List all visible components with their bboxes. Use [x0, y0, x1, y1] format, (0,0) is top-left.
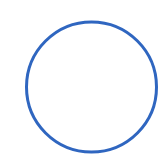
- canvas: [0, 0, 160, 168]
- circle-outline-icon: [27, 22, 157, 152]
